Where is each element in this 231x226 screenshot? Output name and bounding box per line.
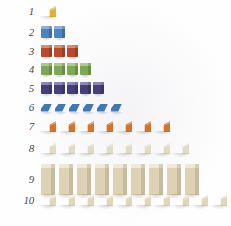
wedge-block: [155, 195, 170, 206]
wedge-block: [155, 121, 170, 132]
cube-block: [67, 63, 78, 75]
wedge-block: [117, 121, 132, 132]
wedge-block: [98, 121, 113, 132]
wedge-block: [79, 143, 94, 154]
tall-bar-block: [113, 164, 127, 195]
block-row: 4: [0, 63, 231, 75]
row-number-label: 5: [0, 83, 41, 94]
wedge-block: [60, 121, 75, 132]
wedge-block: [60, 143, 75, 154]
row-number-label: 4: [0, 64, 41, 75]
row-number-label: 6: [0, 102, 41, 113]
wedge-block: [212, 195, 227, 206]
wedge-block: [79, 195, 94, 206]
flat-tile-block: [55, 104, 66, 112]
cube-block: [41, 45, 52, 57]
flat-tile-block: [83, 104, 94, 112]
block-row: 2: [0, 26, 231, 38]
cube-block: [67, 82, 78, 94]
flat-tile-block: [111, 104, 122, 112]
wedge-block: [155, 143, 170, 154]
block-group: [41, 164, 231, 195]
row-number-label: 8: [0, 143, 41, 154]
cube-block: [41, 26, 52, 38]
wedge-block: [136, 121, 151, 132]
wedge-block: [117, 195, 132, 206]
tall-bar-block: [167, 164, 181, 195]
flat-tile-block: [41, 104, 52, 112]
wedge-block: [60, 195, 75, 206]
block-row: 10: [0, 195, 231, 206]
wedge-block: [117, 143, 132, 154]
block-row: 5: [0, 82, 231, 94]
wedge-block: [98, 195, 113, 206]
wedge-block: [79, 121, 94, 132]
block-group: [41, 26, 231, 38]
block-row: 6: [0, 102, 231, 113]
block-group: [41, 45, 231, 57]
wedge-block: [41, 143, 56, 154]
block-group: [41, 63, 231, 75]
row-number-label: 2: [0, 27, 41, 38]
block-group: [41, 143, 231, 154]
cube-block: [54, 45, 65, 57]
block-group: [41, 6, 231, 17]
counting-blocks-figure: 12345678910: [0, 0, 231, 226]
block-group: [41, 195, 231, 206]
wedge-block: [136, 195, 151, 206]
cube-block: [54, 82, 65, 94]
wedge-block: [174, 195, 189, 206]
cube-block: [67, 45, 78, 57]
tall-bar-block: [131, 164, 145, 195]
cube-block: [41, 63, 52, 75]
row-number-label: 1: [0, 6, 41, 17]
block-group: [41, 121, 231, 132]
cube-block: [41, 82, 52, 94]
row-number-label: 7: [0, 121, 41, 132]
tall-bar-block: [95, 164, 109, 195]
block-group: [41, 104, 231, 112]
flat-tile-block: [97, 104, 108, 112]
flat-tile-block: [69, 104, 80, 112]
tall-bar-block: [185, 164, 199, 195]
block-row: 1: [0, 6, 231, 17]
block-row: 8: [0, 143, 231, 154]
wedge-block: [193, 195, 208, 206]
cube-block: [80, 63, 91, 75]
tall-bar-block: [41, 164, 55, 195]
cube-block: [93, 82, 104, 94]
block-group: [41, 82, 231, 94]
cube-block: [54, 26, 65, 38]
wedge-block: [41, 6, 56, 17]
wedge-block: [136, 143, 151, 154]
wedge-block: [41, 195, 56, 206]
cube-block: [80, 82, 91, 94]
wedge-block: [41, 121, 56, 132]
wedge-block: [98, 143, 113, 154]
cube-block: [54, 63, 65, 75]
row-number-label: 9: [0, 174, 41, 185]
wedge-block: [174, 143, 189, 154]
block-row: 7: [0, 121, 231, 132]
block-row: 3: [0, 45, 231, 57]
row-number-label: 10: [0, 195, 41, 206]
block-row: 9: [0, 164, 231, 195]
tall-bar-block: [149, 164, 163, 195]
row-number-label: 3: [0, 46, 41, 57]
tall-bar-block: [77, 164, 91, 195]
tall-bar-block: [59, 164, 73, 195]
